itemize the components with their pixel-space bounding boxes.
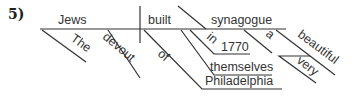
item-number: 5) (8, 6, 24, 22)
word-of: of (155, 47, 172, 65)
subject-word: Jews (58, 13, 86, 27)
object-word: synagogue (211, 13, 272, 27)
word-1770: 1770 (221, 40, 249, 54)
word-themselves: themselves (210, 60, 273, 74)
verb-object-divider (178, 6, 206, 29)
sentence-diagram: 5) Jews built synagogue The devout of Ph… (0, 0, 353, 108)
word-philadelphia: Philadelphia (205, 74, 273, 88)
word-in: in (204, 30, 220, 47)
word-devout: devout (100, 30, 138, 65)
word-very: very (294, 53, 322, 79)
verb-word: built (148, 13, 171, 27)
